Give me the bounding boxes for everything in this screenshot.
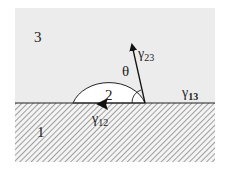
region-1-substrate [15, 103, 215, 162]
region-3-label: 3 [34, 29, 42, 45]
diagram-canvas: 3 2 1 θ γ23 γ13 γ12 [0, 0, 225, 173]
region-1-label: 1 [37, 124, 45, 140]
region-2-label: 2 [105, 87, 113, 103]
theta-label: θ [122, 63, 129, 79]
